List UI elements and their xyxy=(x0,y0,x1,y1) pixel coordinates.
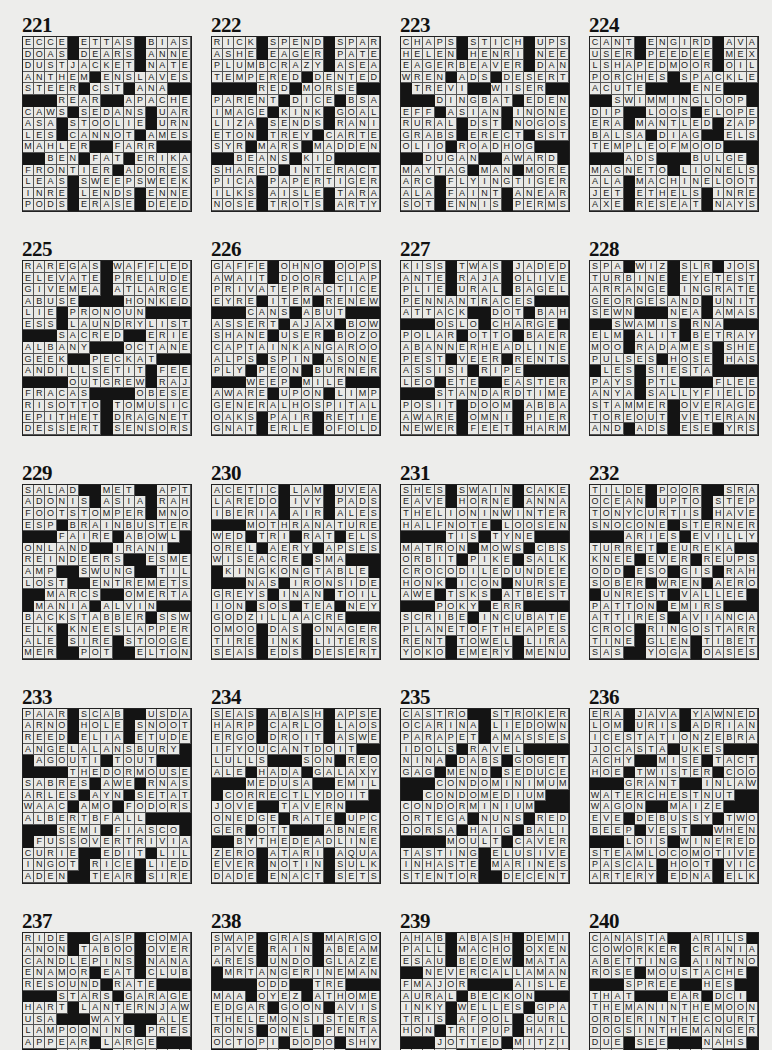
letter-cell: E xyxy=(168,130,179,142)
black-square xyxy=(257,543,268,555)
letter-cell: E xyxy=(747,377,758,389)
letter-cell: C xyxy=(502,130,513,142)
letter-cell: Y xyxy=(313,790,324,802)
letter-cell: S xyxy=(479,589,490,601)
black-square xyxy=(180,354,191,366)
letter-cell: A xyxy=(435,755,446,767)
letter-cell: A xyxy=(157,485,168,497)
black-square xyxy=(635,37,646,49)
letter-cell: D xyxy=(268,732,279,744)
letter-cell: E xyxy=(223,709,234,721)
letter-cell: M xyxy=(635,848,646,860)
letter-cell: E xyxy=(23,520,34,532)
black-square xyxy=(513,412,524,424)
black-square xyxy=(524,543,535,555)
letter-cell: R xyxy=(57,778,68,790)
letter-cell: L xyxy=(223,767,234,779)
letter-cell: E xyxy=(68,423,79,435)
letter-cell: E xyxy=(257,107,268,119)
letter-cell: E xyxy=(423,485,434,497)
black-square xyxy=(668,612,679,624)
letter-cell: O xyxy=(601,1025,612,1037)
black-square xyxy=(724,83,735,95)
black-square xyxy=(457,554,468,566)
black-square xyxy=(168,307,179,319)
letter-cell: N xyxy=(423,296,434,308)
letter-cell: S xyxy=(657,423,668,435)
letter-cell: O xyxy=(479,578,490,590)
letter-cell: V xyxy=(157,72,168,84)
letter-cell: P xyxy=(691,72,702,84)
letter-cell: S xyxy=(135,107,146,119)
letter-cell: O xyxy=(79,836,90,848)
letter-cell: P xyxy=(435,37,446,49)
letter-cell: E xyxy=(57,790,68,802)
letter-cell: T xyxy=(657,377,668,389)
letter-cell: L xyxy=(246,543,257,555)
letter-cell: K xyxy=(290,342,301,354)
letter-cell: U xyxy=(412,118,423,130)
letter-cell: N xyxy=(491,801,502,813)
letter-cell: B xyxy=(23,612,34,624)
letter-cell: T xyxy=(558,589,569,601)
letter-cell: O xyxy=(491,543,502,555)
letter-cell: A xyxy=(34,709,45,721)
letter-cell: P xyxy=(401,400,412,412)
letter-cell: A xyxy=(558,496,569,508)
letter-cell: E xyxy=(268,365,279,377)
crossword-grid: RIDEGASPCOMAANONTABOOOVERCANDLEPINSNANAE… xyxy=(22,932,192,1050)
letter-cell: A xyxy=(435,859,446,871)
black-square xyxy=(346,801,357,813)
black-square xyxy=(524,37,535,49)
letter-cell: I xyxy=(479,176,490,188)
letter-cell: I xyxy=(513,790,524,802)
letter-cell: A xyxy=(212,49,223,61)
letter-cell: A xyxy=(234,933,245,945)
black-square xyxy=(624,188,635,200)
letter-cell: T xyxy=(157,790,168,802)
letter-cell: T xyxy=(491,531,502,543)
letter-cell: C xyxy=(713,72,724,84)
letter-cell: N xyxy=(524,107,535,119)
letter-cell: I xyxy=(646,956,657,968)
black-square xyxy=(513,400,524,412)
letter-cell: N xyxy=(146,296,157,308)
letter-cell: K xyxy=(290,636,301,648)
letter-cell: O xyxy=(302,1037,313,1049)
letter-cell: B xyxy=(346,95,357,107)
letter-cell: R xyxy=(702,767,713,779)
black-square xyxy=(302,979,313,991)
letter-cell: V xyxy=(601,813,612,825)
letter-cell: E xyxy=(135,153,146,165)
letter-cell: A xyxy=(491,296,502,308)
letter-cell: N xyxy=(535,49,546,61)
black-square xyxy=(412,319,423,331)
letter-cell: L xyxy=(735,165,746,177)
black-square xyxy=(68,933,79,945)
letter-cell: A xyxy=(479,933,490,945)
letter-cell: E xyxy=(180,554,191,566)
letter-cell: E xyxy=(646,37,657,49)
letter-cell: N xyxy=(302,944,313,956)
letter-cell: N xyxy=(313,342,324,354)
letter-cell: E xyxy=(747,72,758,84)
letter-cell: S xyxy=(34,319,45,331)
letter-cell: L xyxy=(346,273,357,285)
letter-cell: N xyxy=(524,566,535,578)
letter-cell: E xyxy=(401,60,412,72)
letter-cell: H xyxy=(657,188,668,200)
letter-cell: I xyxy=(468,107,479,119)
letter-cell: E xyxy=(124,1002,135,1014)
letter-cell: N xyxy=(246,566,257,578)
crossword-solution-230: 230 ACETICLAMUVEALAREDOIVYPADSIBERIAAIRA… xyxy=(211,462,383,660)
letter-cell: E xyxy=(180,767,191,779)
letter-cell: N xyxy=(124,107,135,119)
black-square xyxy=(668,284,679,296)
letter-cell: S xyxy=(468,531,479,543)
letter-cell: E xyxy=(558,578,569,590)
letter-cell: N xyxy=(546,107,557,119)
letter-cell: A xyxy=(412,165,423,177)
letter-cell: K xyxy=(502,991,513,1003)
letter-cell: M xyxy=(535,778,546,790)
letter-cell: I xyxy=(101,956,112,968)
